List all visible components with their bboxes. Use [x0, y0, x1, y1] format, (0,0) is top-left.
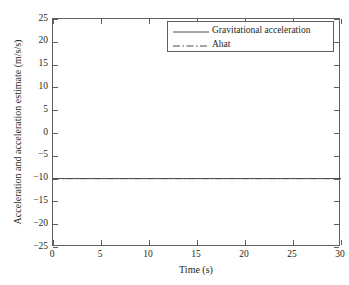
- legend-label: Ahat: [212, 38, 230, 50]
- y-tick-mark: [53, 65, 58, 66]
- y-tick-mark: [53, 156, 58, 157]
- y-tick-label: −5: [8, 149, 48, 160]
- y-tick-mark-right: [334, 201, 339, 202]
- plot-area: [52, 18, 340, 246]
- y-tick-mark-right: [334, 179, 339, 180]
- dash-dot-line-icon: [173, 40, 209, 52]
- y-tick-mark: [53, 133, 58, 134]
- legend-label: Gravitational acceleration: [212, 24, 310, 36]
- x-tick-label: 20: [224, 249, 264, 260]
- y-tick-mark-right: [334, 87, 339, 88]
- y-tick-label: 5: [8, 104, 48, 115]
- y-tick-mark: [53, 247, 58, 248]
- y-tick-mark-right: [334, 247, 339, 248]
- legend-line-sample-solid: [173, 24, 209, 36]
- y-tick-mark-right: [334, 19, 339, 20]
- figure: Acceleration and acceleration estimate (…: [0, 0, 349, 285]
- x-tick-label: 5: [80, 249, 120, 260]
- x-tick-mark: [245, 240, 246, 245]
- series-svg: [53, 19, 341, 247]
- y-tick-mark-right: [334, 110, 339, 111]
- y-tick-mark: [53, 110, 58, 111]
- y-tick-label: 25: [8, 13, 48, 24]
- y-tick-mark-right: [334, 133, 339, 134]
- y-tick-label: 10: [8, 81, 48, 92]
- y-tick-label: 20: [8, 35, 48, 46]
- y-tick-label: 15: [8, 58, 48, 69]
- x-tick-mark-top: [341, 19, 342, 24]
- legend[interactable]: Gravitational acceleration Ahat: [167, 21, 334, 52]
- legend-item-ahat: Ahat: [168, 37, 333, 51]
- legend-item-gravitational-acceleration: Gravitational acceleration: [168, 23, 333, 37]
- y-tick-mark: [53, 87, 58, 88]
- x-tick-label: 30: [320, 249, 349, 260]
- x-tick-label: 10: [128, 249, 168, 260]
- y-tick-mark: [53, 201, 58, 202]
- x-tick-mark: [341, 240, 342, 245]
- y-tick-mark: [53, 19, 58, 20]
- x-tick-mark: [101, 240, 102, 245]
- legend-line-sample-dashdot: [173, 38, 209, 50]
- x-tick-mark: [197, 240, 198, 245]
- y-tick-label: 0: [8, 127, 48, 138]
- x-tick-label: 15: [176, 249, 216, 260]
- x-tick-mark-top: [149, 19, 150, 24]
- y-tick-label: −20: [8, 218, 48, 229]
- y-tick-mark-right: [334, 65, 339, 66]
- x-tick-label: 25: [272, 249, 312, 260]
- y-tick-mark-right: [334, 156, 339, 157]
- x-tick-mark: [293, 240, 294, 245]
- y-tick-mark: [53, 224, 58, 225]
- y-tick-label: −15: [8, 195, 48, 206]
- x-tick-mark: [53, 240, 54, 245]
- y-tick-label: −25: [8, 241, 48, 252]
- x-tick-mark: [149, 240, 150, 245]
- x-axis-title: Time (s): [52, 264, 340, 275]
- y-tick-label: −10: [8, 172, 48, 183]
- x-tick-mark-top: [101, 19, 102, 24]
- y-tick-mark: [53, 179, 58, 180]
- y-tick-mark-right: [334, 224, 339, 225]
- y-tick-mark-right: [334, 42, 339, 43]
- y-tick-mark: [53, 42, 58, 43]
